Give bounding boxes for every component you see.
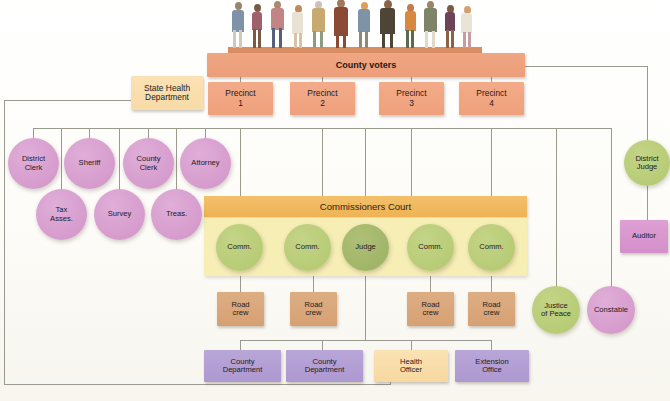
connector-bus-treas [176, 128, 177, 190]
connector-department-bus [240, 340, 492, 341]
commissioner-4-label: Comm. [479, 243, 503, 252]
connector-judge-deptbus [365, 270, 366, 340]
connector-deptbus-extension [491, 340, 492, 350]
node-county-voters[interactable]: County voters [207, 53, 525, 77]
sheriff-label: Sheriff [79, 159, 101, 168]
connector-left-border [4, 100, 5, 384]
extension-office-line2: Office [482, 366, 502, 375]
people-illustration [228, 0, 482, 54]
road-crew-4-line2: crew [483, 309, 499, 318]
node-road-crew-2[interactable]: Road crew [290, 292, 337, 326]
attorney-label: Attorney [191, 159, 219, 168]
commissioner-1-label: Comm. [227, 243, 251, 252]
node-surveyor[interactable]: Survey [94, 189, 145, 240]
treasurer-label: Treas. [166, 210, 187, 219]
node-commissioner-1[interactable]: Comm. [216, 224, 263, 271]
surveyor-label: Survey [108, 210, 132, 219]
commissioners-court-header: Commissioners Court [204, 196, 527, 217]
node-commissioner-2[interactable]: Comm. [284, 224, 331, 271]
justice-of-peace-line2: of Peace [541, 310, 571, 319]
road-crew-1-line2: crew [232, 309, 248, 318]
connector-bus-survey [119, 128, 120, 190]
node-district-judge[interactable]: District Judge [624, 140, 670, 186]
node-county-judge[interactable]: Judge [342, 224, 389, 271]
node-auditor[interactable]: Auditor [620, 220, 668, 253]
health-officer-line2: Officer [400, 366, 422, 375]
precinct-4-line2: 4 [489, 99, 494, 108]
connector-bus-constable [611, 128, 612, 286]
connector-districtjudge-down [647, 66, 648, 140]
commissioner-2-label: Comm. [295, 243, 319, 252]
node-road-crew-4[interactable]: Road crew [468, 292, 515, 326]
node-district-clerk[interactable]: District Clerk [8, 138, 59, 189]
connector-bus-judge [365, 128, 366, 197]
node-precinct-4[interactable]: Precinct 4 [459, 82, 524, 115]
precinct-3-line2: 3 [409, 99, 414, 108]
county-department-2-line2: Department [305, 366, 345, 375]
node-county-department-2[interactable]: County Department [286, 350, 363, 382]
tax-assessor-line2: Asses. [50, 215, 73, 224]
precinct-2-line2: 2 [320, 99, 325, 108]
connector-bus-comm3 [411, 128, 412, 197]
node-commissioner-4[interactable]: Comm. [468, 224, 515, 271]
state-health-line2: Department [145, 93, 189, 102]
precinct-1-line2: 1 [238, 99, 243, 108]
node-commissioner-3[interactable]: Comm. [407, 224, 454, 271]
connector-deptbus-healthofficer [411, 340, 412, 350]
node-justice-of-peace[interactable]: Justice of Peace [532, 286, 580, 334]
connector-statehealth-left [4, 100, 131, 101]
district-judge-line2: Judge [637, 163, 658, 172]
county-clerk-line2: Clerk [140, 164, 158, 173]
connector-bus-taxasses [61, 128, 62, 190]
connector-bottom-bus [4, 384, 390, 385]
node-extension-office[interactable]: Extension Office [455, 350, 529, 382]
district-clerk-line2: Clerk [25, 164, 43, 173]
node-road-crew-3[interactable]: Road crew [407, 292, 454, 326]
node-treasurer[interactable]: Treas. [151, 189, 202, 240]
connector-bus-comm2 [322, 128, 323, 197]
connector-bus-comm4 [491, 128, 492, 197]
connector-bus-justiceofpeace [556, 128, 557, 286]
node-tax-assessor[interactable]: Tax Asses. [36, 189, 87, 240]
node-attorney[interactable]: Attorney [180, 138, 231, 189]
node-county-department-1[interactable]: County Department [204, 350, 281, 382]
connector-deptbus-countydept1 [240, 340, 241, 350]
commissioner-3-label: Comm. [418, 243, 442, 252]
node-road-crew-1[interactable]: Road crew [217, 292, 264, 326]
node-health-officer[interactable]: Health Officer [374, 350, 448, 382]
node-state-health-department[interactable]: State Health Department [131, 76, 203, 110]
auditor-label: Auditor [632, 232, 656, 241]
node-sheriff[interactable]: Sheriff [64, 138, 115, 189]
connector-bus-comm1 [240, 128, 241, 197]
connector-voters-right [525, 66, 647, 67]
road-crew-3-line2: crew [422, 309, 438, 318]
node-precinct-1[interactable]: Precinct 1 [208, 82, 273, 115]
road-crew-2-line2: crew [305, 309, 321, 318]
county-department-1-line2: Department [223, 366, 263, 375]
node-constable[interactable]: Constable [587, 286, 635, 334]
constable-label: Constable [594, 306, 628, 315]
node-precinct-2[interactable]: Precinct 2 [290, 82, 355, 115]
county-voters-label: County voters [336, 60, 397, 70]
node-precinct-3[interactable]: Precinct 3 [379, 82, 444, 115]
org-chart-diagram: County voters State Health Department Pr… [0, 0, 670, 401]
county-judge-label: Judge [355, 243, 376, 252]
commissioners-court-title: Commissioners Court [320, 201, 411, 212]
node-county-clerk[interactable]: County Clerk [123, 138, 174, 189]
connector-deptbus-countydept2 [322, 340, 323, 350]
